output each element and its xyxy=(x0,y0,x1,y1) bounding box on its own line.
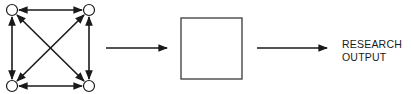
output-label-line1: RESEARCH xyxy=(342,38,402,51)
output-label-line2: OUTPUT xyxy=(342,51,402,64)
network-edges xyxy=(12,10,89,86)
node-top-right xyxy=(84,5,95,16)
node-top-left xyxy=(7,5,18,16)
node-bottom-left xyxy=(7,81,18,92)
process-box xyxy=(181,18,242,79)
node-bottom-right xyxy=(84,81,95,92)
research-output-label: RESEARCH OUTPUT xyxy=(342,38,402,64)
